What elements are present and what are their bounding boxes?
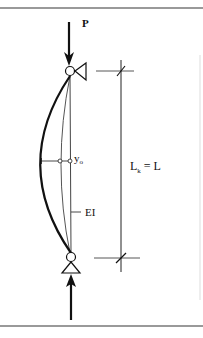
effective-length-label: Lk = L [130, 159, 161, 175]
initial-imperfection-curve [61, 76, 70, 253]
top-pin-icon [66, 67, 75, 76]
bottom-pin-icon [67, 253, 76, 262]
bottom-load-arrow [66, 274, 76, 320]
euler-buckling-diagram: P yo EI Lk = L [0, 0, 203, 338]
deflection-label: yo [74, 152, 84, 166]
bottom-fixed-support-icon [62, 262, 80, 273]
deflection-marker [41, 158, 72, 164]
load-label: P [82, 17, 89, 29]
buckled-shape-curve [40, 76, 71, 253]
top-load-arrow [64, 22, 74, 66]
column-axis [70, 75, 71, 253]
stiffness-label: EI [85, 206, 96, 218]
top-roller-support-icon [75, 63, 86, 80]
